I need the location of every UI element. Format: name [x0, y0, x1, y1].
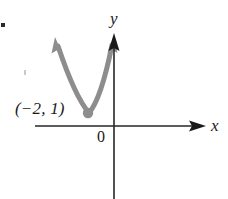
x-axis-label: x: [211, 117, 219, 134]
vertex-coordinate-label: (−2, 1): [15, 100, 65, 117]
x-axis: [35, 121, 206, 132]
parabola-left-arrowhead: [52, 37, 63, 54]
y-axis-label: y: [110, 10, 118, 27]
parabola-path: [58, 45, 112, 113]
scan-artifact-dot: [1, 23, 5, 27]
figure-canvas: y x 0 (−2, 1): [0, 0, 228, 199]
vertex-point-marker: [83, 108, 93, 118]
scan-artifact-speck: [24, 70, 26, 75]
origin-label: 0: [97, 129, 105, 145]
